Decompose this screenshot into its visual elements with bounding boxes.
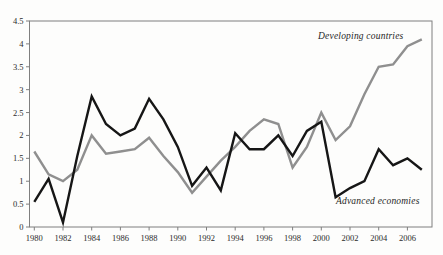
- developing-countries-line: [34, 39, 422, 192]
- x-axis-tick-label: 1992: [198, 233, 215, 243]
- x-axis-tick-label: 2002: [342, 233, 359, 243]
- y-axis-tick-label: 3.5: [13, 62, 24, 72]
- developing-countries-label: Developing countries: [318, 31, 404, 41]
- x-axis-tick-label: 1994: [227, 233, 245, 243]
- x-axis-tick-label: 1986: [112, 233, 129, 243]
- x-axis-tick-label: 1988: [141, 233, 158, 243]
- x-axis-tick-label: 2000: [313, 233, 330, 243]
- x-axis-tick-label: 1996: [255, 233, 272, 243]
- y-axis-tick-label: 3: [19, 85, 23, 95]
- advanced-economies-label: Advanced economies: [336, 196, 420, 206]
- x-axis-tick-label: 1990: [169, 233, 186, 243]
- y-axis-tick-label: 2: [19, 130, 23, 140]
- line-chart-figure: 00.511.522.533.544.519801982198419861988…: [0, 0, 443, 255]
- y-axis-tick-label: 1.5: [13, 153, 24, 163]
- x-axis-tick-label: 1982: [55, 233, 72, 243]
- x-axis-tick-label: 1984: [83, 233, 101, 243]
- y-axis-tick-label: 1: [19, 176, 23, 186]
- y-axis-tick-label: 4.5: [13, 16, 24, 26]
- x-axis-tick-label: 1980: [26, 233, 43, 243]
- y-axis-tick-label: 0.5: [13, 199, 24, 209]
- y-axis-tick-label: 2.5: [13, 108, 24, 118]
- x-axis-tick-label: 2004: [370, 233, 388, 243]
- y-axis-tick-label: 0: [19, 222, 23, 232]
- x-axis-tick-label: 1998: [284, 233, 301, 243]
- y-axis-tick-label: 4: [19, 39, 24, 49]
- x-axis-tick-label: 2006: [399, 233, 416, 243]
